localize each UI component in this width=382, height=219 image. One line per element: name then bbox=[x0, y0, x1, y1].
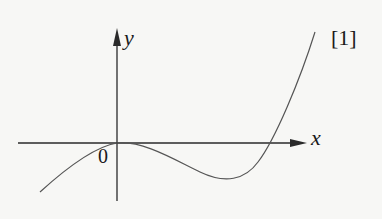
graph bbox=[0, 0, 382, 219]
x-axis-arrow-icon bbox=[290, 139, 307, 147]
figure-tag: [1] bbox=[331, 27, 357, 49]
x-axis-label: x bbox=[311, 127, 321, 149]
y-axis-label: y bbox=[124, 27, 134, 49]
function-curve bbox=[40, 32, 315, 192]
y-axis-arrow-icon bbox=[113, 28, 121, 46]
origin-label: 0 bbox=[98, 146, 108, 166]
figure: y x 0 [1] bbox=[0, 0, 382, 219]
